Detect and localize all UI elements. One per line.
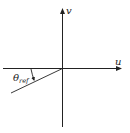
u-axis-label: u [115, 56, 121, 67]
reference-angle-diagram: v u θref [0, 0, 130, 133]
v-axis-label: v [66, 5, 72, 16]
theta-subscript: ref [19, 77, 30, 85]
theta-ref-label: θref [13, 72, 30, 85]
angle-arc-icon [31, 69, 34, 80]
